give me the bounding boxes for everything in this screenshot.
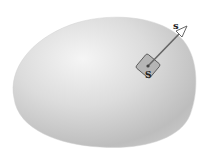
- patch-label: S: [145, 70, 152, 80]
- surface-diagram: s S: [0, 0, 202, 158]
- closed-surface: [13, 17, 196, 147]
- vector-label: s: [173, 20, 179, 31]
- patch-center-dot: [146, 64, 149, 67]
